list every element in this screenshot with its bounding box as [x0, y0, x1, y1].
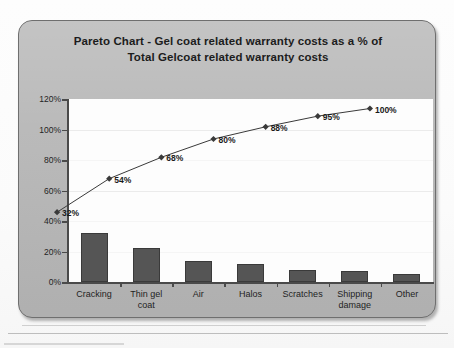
x-tick-mark	[224, 282, 226, 287]
chart-card: Pareto Chart - Gel coat related warranty…	[18, 20, 436, 318]
gridline	[68, 191, 433, 192]
x-category-label-line: Halos	[224, 289, 276, 300]
y-tick-mark	[62, 221, 68, 223]
cumulative-value-label: 80%	[219, 135, 236, 145]
x-tick-mark	[120, 282, 122, 287]
scan-artifact-line-2	[8, 333, 448, 334]
chart-title-line-1: Pareto Chart - Gel coat related warranty…	[19, 33, 437, 49]
y-tick-label: 80%	[19, 155, 61, 165]
chart-title: Pareto Chart - Gel coat related warranty…	[19, 33, 437, 65]
y-tick-label: 60%	[19, 186, 61, 196]
x-category-label-line: Air	[172, 289, 224, 300]
bar	[81, 233, 108, 282]
x-category-label: Scratches	[277, 289, 329, 300]
cumulative-value-label: 95%	[323, 112, 340, 122]
cumulative-value-label: 54%	[114, 175, 131, 185]
cumulative-value-label: 32%	[62, 208, 79, 218]
bar	[133, 248, 160, 282]
x-category-label-line: Scratches	[277, 289, 329, 300]
x-category-label: Shippingdamage	[329, 289, 381, 311]
x-category-label-line: Thin gel	[120, 289, 172, 300]
x-tick-mark	[329, 282, 331, 287]
y-tick-mark	[62, 252, 68, 254]
x-category-label: Cracking	[68, 289, 120, 300]
cumulative-value-label: 88%	[271, 123, 288, 133]
x-category-label: Air	[172, 289, 224, 300]
x-category-label-line: damage	[329, 300, 381, 311]
plot-area	[68, 99, 433, 282]
scan-artifact-line-1	[22, 325, 426, 326]
y-tick-label: 120%	[19, 94, 61, 104]
bar	[185, 261, 212, 282]
x-category-label-line: coat	[120, 300, 172, 311]
x-category-label: Other	[381, 289, 433, 300]
bar	[237, 264, 264, 282]
chart-title-line-2: Total Gelcoat related warranty costs	[19, 49, 437, 65]
x-tick-mark	[381, 282, 383, 287]
gridline	[68, 252, 433, 253]
x-axis-line	[67, 282, 434, 284]
y-tick-mark	[62, 160, 68, 162]
x-category-label-line: Cracking	[68, 289, 120, 300]
y-tick-label: 0%	[19, 277, 61, 287]
gridline	[68, 221, 433, 222]
x-category-label: Halos	[224, 289, 276, 300]
y-tick-label: 100%	[19, 125, 61, 135]
bar	[393, 274, 420, 282]
x-category-label-line: Other	[381, 289, 433, 300]
gridline	[68, 130, 433, 131]
x-category-label: Thin gelcoat	[120, 289, 172, 311]
gridline	[68, 160, 433, 161]
scan-artifact-line-3	[4, 343, 124, 345]
y-tick-label: 20%	[19, 247, 61, 257]
cumulative-value-label: 68%	[166, 153, 183, 163]
y-tick-mark	[62, 130, 68, 132]
y-tick-mark	[62, 191, 68, 193]
x-category-label-line: Shipping	[329, 289, 381, 300]
y-tick-label: 40%	[19, 216, 61, 226]
bar	[341, 271, 368, 282]
y-tick-mark	[62, 99, 68, 101]
x-tick-mark	[277, 282, 279, 287]
y-tick-mark	[62, 282, 68, 284]
bar	[289, 270, 316, 282]
cumulative-value-label: 100%	[375, 105, 397, 115]
x-tick-mark	[172, 282, 174, 287]
